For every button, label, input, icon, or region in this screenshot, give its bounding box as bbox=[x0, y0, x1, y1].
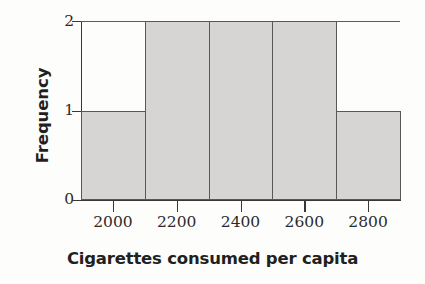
y-tick-label-2: 2 bbox=[48, 14, 74, 30]
histogram-bar bbox=[81, 111, 146, 201]
y-axis-tick-labels: 2 1 0 bbox=[44, 0, 74, 284]
x-tick-label: 2000 bbox=[78, 215, 148, 231]
histogram-bar bbox=[209, 21, 274, 200]
y-tick-label-0: 0 bbox=[48, 192, 74, 208]
x-axis-title: Cigarettes consumed per capita bbox=[0, 249, 425, 268]
x-tick-label: 2800 bbox=[333, 215, 403, 231]
y-tickmark-1 bbox=[72, 111, 81, 112]
x-tickmark bbox=[304, 201, 305, 212]
histogram-bar bbox=[145, 21, 210, 200]
y-tick-label-1: 1 bbox=[48, 103, 74, 119]
x-tick-label: 2600 bbox=[269, 215, 339, 231]
y-tickmark-0 bbox=[72, 200, 81, 201]
y-tickmark-2 bbox=[72, 21, 81, 22]
x-tickmark bbox=[368, 201, 369, 212]
x-tick-label: 2400 bbox=[206, 215, 276, 231]
x-tick-label: 2200 bbox=[142, 215, 212, 231]
x-tickmark bbox=[177, 201, 178, 212]
x-tickmark bbox=[241, 201, 242, 212]
histogram-bar bbox=[272, 21, 337, 200]
plot-area bbox=[81, 21, 400, 200]
histogram-figure: Frequency 2 1 0 20002200240026002800 Cig… bbox=[0, 0, 425, 284]
x-tickmark bbox=[113, 201, 114, 212]
histogram-bar bbox=[336, 111, 401, 201]
